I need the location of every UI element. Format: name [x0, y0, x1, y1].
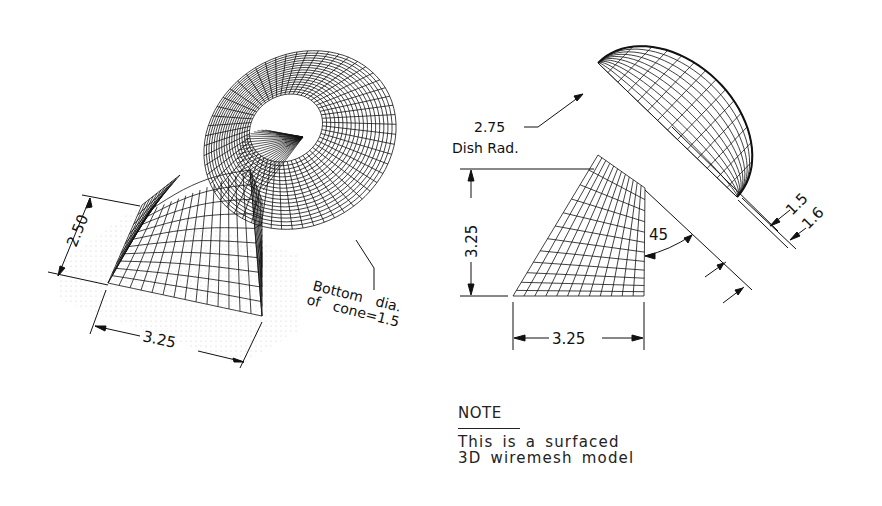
side-view: 2.75 Dish Rad. 3.25 3.25: [0, 0, 882, 506]
dish-radius-label: Dish Rad.: [452, 140, 519, 156]
drawing-canvas: 2.50 3.25 Bottom dia. of cone=1.5 2.75 D…: [0, 0, 882, 506]
note-title: NOTE: [458, 404, 502, 422]
dish-radius-value: 2.75: [474, 119, 505, 135]
note-body: This is a surfaced 3D wiremesh model: [458, 434, 634, 466]
angle-dimension: [645, 190, 752, 303]
dish-radius-leader: [524, 94, 583, 127]
side-dish-wiremesh: [598, 46, 752, 197]
height-label-right: 3.25: [463, 225, 481, 258]
offset-dimensions: [672, 127, 806, 249]
note-line-2: 3D wiremesh model: [458, 450, 634, 466]
width-label-right: 3.25: [552, 330, 585, 348]
note-line-1: This is a surfaced: [458, 434, 634, 450]
angle-label: 45: [649, 226, 668, 244]
side-cone-wiremesh: [513, 155, 645, 296]
note-underline: [458, 428, 520, 429]
